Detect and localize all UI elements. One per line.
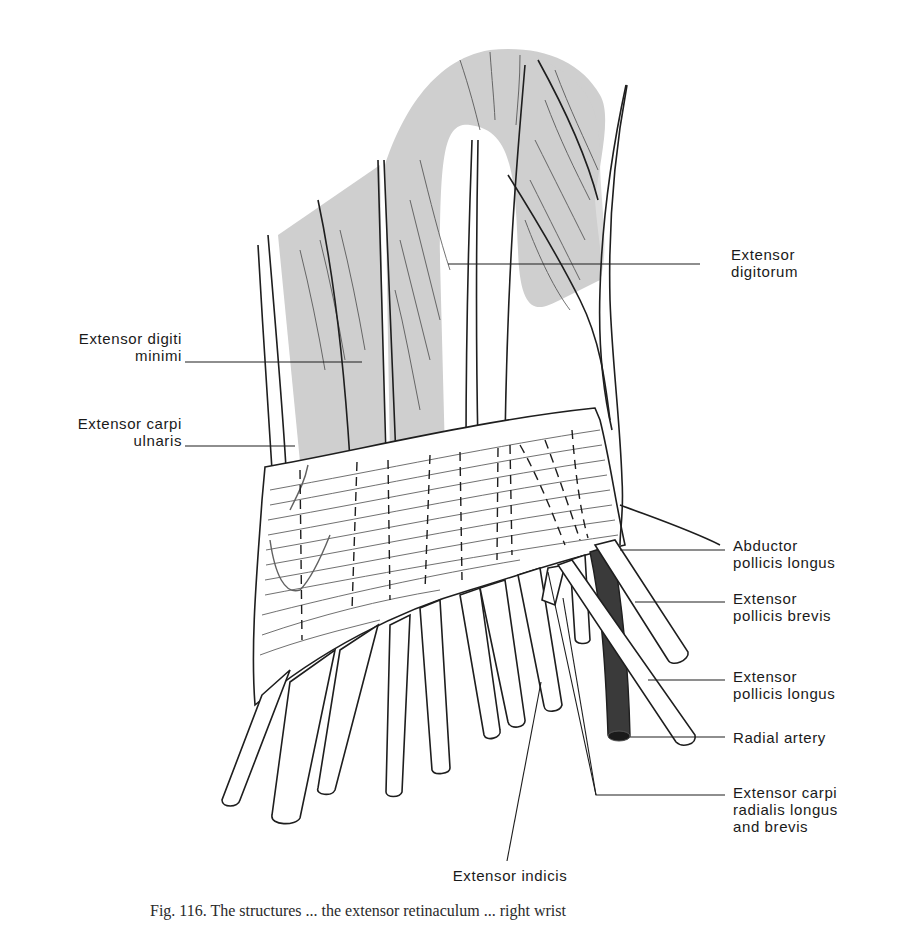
label-line: Extensor carpi	[40, 415, 182, 432]
label-line: pollicis longus	[733, 554, 835, 571]
label-extensor-indicis: Extensor indicis	[420, 867, 600, 884]
label-line: radialis longus	[733, 801, 838, 818]
label-extensor-carpi-radialis: Extensor carpi radialis longus and brevi…	[733, 784, 838, 835]
thenar-and-forearm-outline	[610, 85, 720, 545]
label-line: pollicis brevis	[733, 607, 831, 624]
label-line: Extensor	[731, 246, 798, 263]
label-line: ulnaris	[40, 432, 182, 449]
label-line: Radial artery	[733, 729, 826, 746]
label-line: Extensor	[733, 668, 835, 685]
label-extensor-digitorum: Extensor digitorum	[731, 246, 798, 280]
label-line: pollicis longus	[733, 685, 835, 702]
label-extensor-digiti-minimi: Extensor digiti minimi	[40, 330, 182, 364]
label-line: Abductor	[733, 537, 835, 554]
label-line: digitorum	[731, 263, 798, 280]
label-line: Extensor carpi	[733, 784, 838, 801]
label-line: Extensor digiti	[40, 330, 182, 347]
label-extensor-carpi-ulnaris: Extensor carpi ulnaris	[40, 415, 182, 449]
label-line: and brevis	[733, 818, 838, 835]
label-abductor-pollicis-longus: Abductor pollicis longus	[733, 537, 835, 571]
label-extensor-pollicis-brevis: Extensor pollicis brevis	[733, 590, 831, 624]
label-line: Extensor indicis	[420, 867, 600, 884]
label-radial-artery: Radial artery	[733, 729, 826, 746]
label-line: minimi	[40, 347, 182, 364]
label-extensor-pollicis-longus: Extensor pollicis longus	[733, 668, 835, 702]
figure-caption: Fig. 116. The structures ... the extenso…	[150, 902, 770, 925]
label-line: Extensor	[733, 590, 831, 607]
